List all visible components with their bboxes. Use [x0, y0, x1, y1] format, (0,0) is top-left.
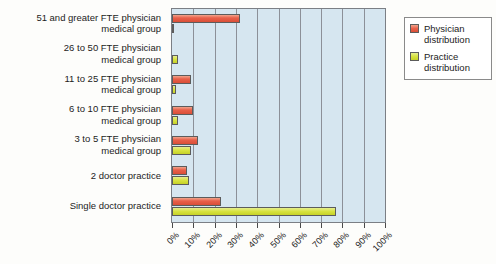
x-tick-8 — [342, 223, 343, 228]
category-label-2: 11 to 25 FTE physician medical group — [0, 73, 166, 96]
bar-practice-5 — [172, 176, 189, 185]
bar-practice-4 — [172, 146, 191, 155]
bar-practice-0 — [172, 24, 174, 33]
bar-physician-5 — [172, 166, 187, 175]
gridline — [321, 9, 322, 222]
bar-practice-6 — [172, 207, 336, 216]
category-label-1: 26 to 50 FTE physician medical group — [0, 42, 166, 65]
gridline — [300, 9, 301, 222]
legend-label-0: Physician distribution — [424, 23, 470, 45]
legend-swatch-practice-icon — [410, 52, 419, 61]
legend-item-0[interactable]: Physician distribution — [410, 23, 487, 45]
x-tick-6 — [300, 223, 301, 228]
gridline — [193, 9, 194, 222]
category-label-6: Single doctor practice — [0, 200, 166, 212]
category-label-4: 3 to 5 FTE physician medical group — [0, 133, 166, 156]
x-tick-10 — [385, 223, 386, 228]
legend-item-1[interactable]: Practice distribution — [410, 51, 487, 73]
gridline — [364, 9, 365, 222]
chart-legend: Physician distributionPractice distribut… — [404, 17, 492, 80]
gridline — [236, 9, 237, 222]
bar-practice-3 — [172, 116, 178, 125]
category-label-0: 51 and greater FTE physician medical gro… — [0, 12, 166, 35]
bar-physician-6 — [172, 197, 221, 206]
x-tick-7 — [321, 223, 322, 228]
gridline — [215, 9, 216, 222]
x-tick-1 — [193, 223, 194, 228]
category-label-3: 6 to 10 FTE physician medical group — [0, 103, 166, 126]
gridline — [257, 9, 258, 222]
bar-physician-4 — [172, 136, 198, 145]
category-label-5: 2 doctor practice — [0, 170, 166, 182]
bar-physician-3 — [172, 106, 193, 115]
legend-label-1: Practice distribution — [424, 51, 470, 73]
bar-physician-0 — [172, 14, 240, 23]
bar-practice-1 — [172, 55, 178, 64]
gridline — [342, 9, 343, 222]
legend-swatch-physician-icon — [410, 24, 419, 33]
x-tick-9 — [364, 223, 365, 228]
gridline — [279, 9, 280, 222]
category-axis-labels: 51 and greater FTE physician medical gro… — [0, 8, 166, 223]
x-tick-4 — [257, 223, 258, 228]
x-tick-3 — [236, 223, 237, 228]
x-tick-0 — [172, 223, 173, 228]
bar-practice-2 — [172, 85, 176, 94]
bar-chart: 51 and greater FTE physician medical gro… — [0, 0, 496, 264]
bar-physician-2 — [172, 75, 191, 84]
x-tick-2 — [215, 223, 216, 228]
plot-area — [171, 8, 386, 223]
x-tick-5 — [279, 223, 280, 228]
